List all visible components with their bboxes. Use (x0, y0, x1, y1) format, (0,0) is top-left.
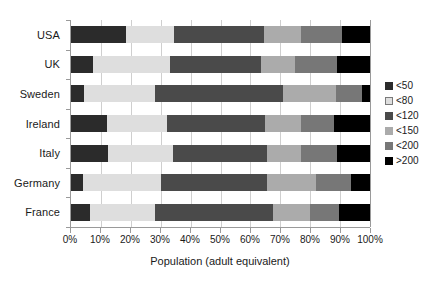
stacked-bar[interactable] (71, 85, 370, 102)
bar-segment[interactable] (71, 115, 107, 132)
bar-segment[interactable] (336, 85, 363, 102)
bar-segment[interactable] (93, 56, 169, 73)
bar-segment[interactable] (174, 26, 264, 43)
bar-segment[interactable] (295, 56, 337, 73)
bar-segment[interactable] (301, 26, 341, 43)
stacked-bar[interactable] (71, 174, 370, 191)
legend-swatch-icon (385, 82, 393, 90)
bar-segment[interactable] (351, 174, 370, 191)
bar-rows (71, 20, 370, 227)
legend-item[interactable]: <120 (385, 108, 440, 123)
bar-segment[interactable] (71, 56, 93, 73)
legend-item[interactable]: >200 (385, 153, 440, 168)
x-axis-tick (340, 228, 341, 233)
bar-segment[interactable] (71, 26, 126, 43)
legend-label: <200 (396, 141, 419, 151)
stacked-bar[interactable] (71, 56, 370, 73)
bar-segment[interactable] (71, 204, 90, 221)
x-axis-title: Population (adult equivalent) (70, 255, 370, 267)
bar-segment[interactable] (83, 174, 161, 191)
bar-segment[interactable] (261, 56, 295, 73)
bar-segment[interactable] (301, 145, 337, 162)
bar-segment[interactable] (273, 204, 310, 221)
legend-swatch-icon (385, 142, 393, 150)
x-axis-tick-labels: 0%10%20%30%40%50%60%70%80%90%100% (0, 234, 440, 250)
legend-label: <150 (396, 126, 419, 136)
bar-segment[interactable] (267, 174, 316, 191)
x-axis-tick (220, 228, 221, 233)
bar-segment[interactable] (71, 145, 108, 162)
legend-item[interactable]: <80 (385, 93, 440, 108)
legend-label: >200 (396, 156, 419, 166)
bar-segment[interactable] (267, 145, 301, 162)
stacked-bar-chart: USAUKSwedenIrelandItalyGermanyFrance 0%1… (0, 0, 440, 283)
bar-segment[interactable] (337, 56, 370, 73)
x-axis-tick-label: 20% (120, 234, 140, 245)
x-axis-tick (370, 228, 371, 233)
bar-segment[interactable] (337, 145, 370, 162)
x-axis-tick-label: 0% (63, 234, 77, 245)
bar-row-slot (71, 168, 370, 198)
legend: <50<80<120<150<200>200 (385, 78, 440, 168)
x-axis-tick (160, 228, 161, 233)
bar-segment[interactable] (161, 174, 267, 191)
legend-label: <120 (396, 111, 419, 121)
bar-segment[interactable] (170, 56, 261, 73)
bar-segment[interactable] (155, 204, 273, 221)
x-axis-tick (250, 228, 251, 233)
bar-segment[interactable] (84, 85, 154, 102)
x-axis-tick (70, 228, 71, 233)
bar-row-slot (71, 50, 370, 80)
x-axis-tick-label: 80% (300, 234, 320, 245)
bar-segment[interactable] (71, 174, 83, 191)
x-axis-tick (310, 228, 311, 233)
legend-item[interactable]: <50 (385, 78, 440, 93)
bar-segment[interactable] (339, 204, 370, 221)
y-axis-label: UK (0, 50, 66, 80)
bar-segment[interactable] (301, 115, 334, 132)
x-axis-tick-label: 10% (90, 234, 110, 245)
bar-segment[interactable] (173, 145, 267, 162)
y-axis-label: Sweden (0, 79, 66, 109)
bar-segment[interactable] (316, 174, 350, 191)
legend-item[interactable]: <150 (385, 123, 440, 138)
y-axis-label: Ireland (0, 109, 66, 139)
legend-item[interactable]: <200 (385, 138, 440, 153)
y-axis-labels: USAUKSwedenIrelandItalyGermanyFrance (0, 20, 66, 227)
stacked-bar[interactable] (71, 145, 370, 162)
plot-area (70, 20, 370, 227)
x-axis-tick-label: 90% (330, 234, 350, 245)
stacked-bar[interactable] (71, 26, 370, 43)
bar-segment[interactable] (265, 115, 301, 132)
bar-segment[interactable] (283, 85, 335, 102)
legend-swatch-icon (385, 112, 393, 120)
gridline (370, 20, 371, 227)
legend-label: <80 (396, 96, 413, 106)
bar-segment[interactable] (71, 85, 84, 102)
x-axis-tick-label: 60% (240, 234, 260, 245)
bar-segment[interactable] (334, 115, 370, 132)
stacked-bar[interactable] (71, 115, 370, 132)
x-axis-tick-label: 50% (210, 234, 230, 245)
bar-segment[interactable] (126, 26, 174, 43)
x-axis-line (70, 227, 370, 234)
y-axis-label: USA (0, 20, 66, 50)
bar-segment[interactable] (155, 85, 284, 102)
legend-swatch-icon (385, 157, 393, 165)
bar-segment[interactable] (342, 26, 370, 43)
x-axis-tick (190, 228, 191, 233)
bar-segment[interactable] (108, 145, 172, 162)
legend-swatch-icon (385, 97, 393, 105)
bar-segment[interactable] (362, 85, 369, 102)
bar-row-slot (71, 197, 370, 227)
bar-segment[interactable] (90, 204, 154, 221)
x-axis-tick-label: 40% (180, 234, 200, 245)
bar-segment[interactable] (107, 115, 167, 132)
y-axis-label: Italy (0, 138, 66, 168)
bar-segment[interactable] (310, 204, 338, 221)
bar-segment[interactable] (167, 115, 266, 132)
stacked-bar[interactable] (71, 204, 370, 221)
y-axis-label: France (0, 197, 66, 227)
x-axis-tick-label: 30% (150, 234, 170, 245)
bar-segment[interactable] (264, 26, 301, 43)
